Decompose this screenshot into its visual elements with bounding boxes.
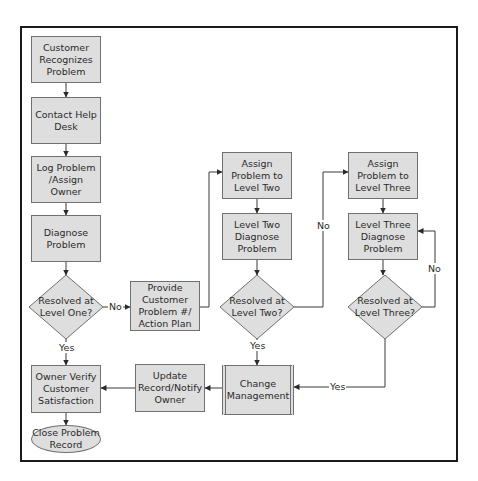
decision-label-resolved1: Resolved at Level One?: [29, 275, 103, 339]
process-node-assign2: Assign Problem to Level Two: [222, 152, 292, 199]
edge-label-yes: Yes: [329, 381, 346, 392]
process-node-recognize: Customer Recognizes Problem: [31, 36, 101, 83]
edge-label-no: No: [427, 263, 442, 274]
process-node-provide: Provide Customer Problem #/ Action Plan: [130, 281, 200, 331]
process-node-verify: Owner Verify Customer Satisfaction: [31, 365, 101, 413]
process-node-update: Update Record/Notify Owner: [135, 364, 205, 412]
process-node-assign3: Assign Problem to Level Three: [348, 152, 418, 199]
terminal-node-close: Close Problem Record: [31, 425, 101, 453]
edge-label-no: No: [108, 301, 123, 312]
process-node-diagnose: Diagnose Problem: [31, 215, 101, 262]
connector-arrow: [294, 339, 385, 387]
edge-label-no: No: [316, 220, 331, 231]
process-node-diag2: Level Two Diagnose Problem: [222, 213, 292, 260]
process-node-diag3: Level Three Diagnose Problem: [348, 213, 418, 260]
connector-arrow: [294, 172, 348, 307]
process-node-contact: Contact Help Desk: [31, 97, 101, 144]
connector-arrow: [200, 172, 222, 307]
decision-label-resolved3: Resolved at Level Three?: [348, 275, 422, 339]
process-node-log: Log Problem /Assign Owner: [31, 156, 101, 203]
subprocess-node-change: Change Management: [222, 365, 294, 415]
decision-label-resolved2: Resolved at Level Two?: [220, 275, 294, 339]
edge-label-yes: Yes: [249, 340, 266, 351]
edge-label-yes: Yes: [58, 342, 75, 353]
